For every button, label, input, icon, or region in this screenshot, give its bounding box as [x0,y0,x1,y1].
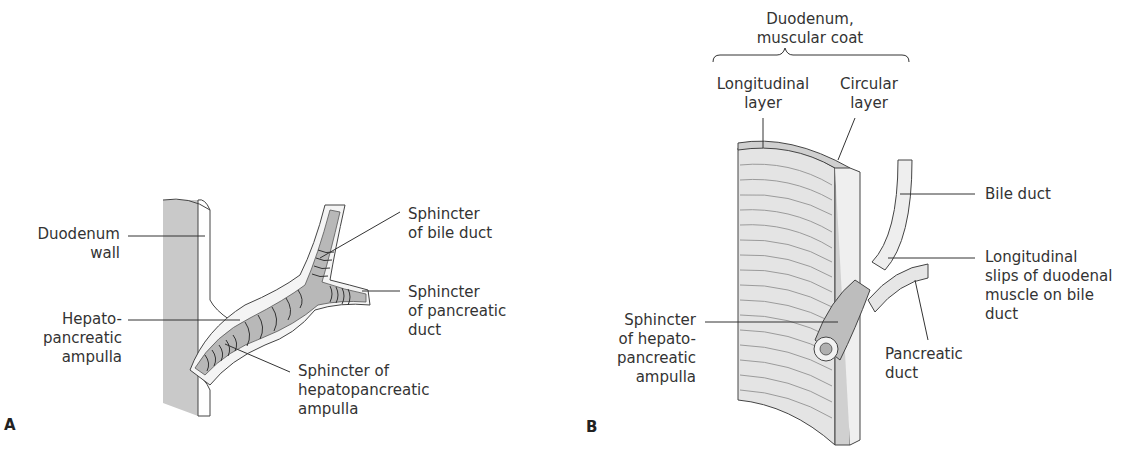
label-muscular-coat: Duodenum, muscular coat [750,10,870,48]
label-circular-layer: Circular layer [834,75,904,113]
label-sphincter-hepatopancreatic-ampulla-b: Sphincter of hepato- pancreatic ampulla [590,311,696,387]
panel-b-letter: B [586,418,597,436]
label-sphincter-hepatopancreatic-ampulla-a: Sphincter of hepatopancreatic ampulla [298,362,430,419]
label-duodenum-wall: Duodenum wall [20,225,120,263]
label-sphincter-pancreatic-duct: Sphincter of pancreatic duct [408,283,506,340]
label-hepatopancreatic-ampulla: Hepato- pancreatic ampulla [10,310,122,367]
figure: Duodenum wall Hepato- pancreatic ampulla… [0,0,1148,463]
label-pancreatic-duct: Pancreatic duct [885,345,963,383]
label-longitudinal-layer: Longitudinal layer [713,75,813,113]
panel-a-illustration [0,0,1148,463]
label-sphincter-bile-duct: Sphincter of bile duct [408,205,492,243]
panel-a-letter: A [4,416,16,434]
label-bile-duct: Bile duct [985,185,1051,204]
label-longitudinal-slips: Longitudinal slips of duodenal muscle on… [985,248,1112,324]
